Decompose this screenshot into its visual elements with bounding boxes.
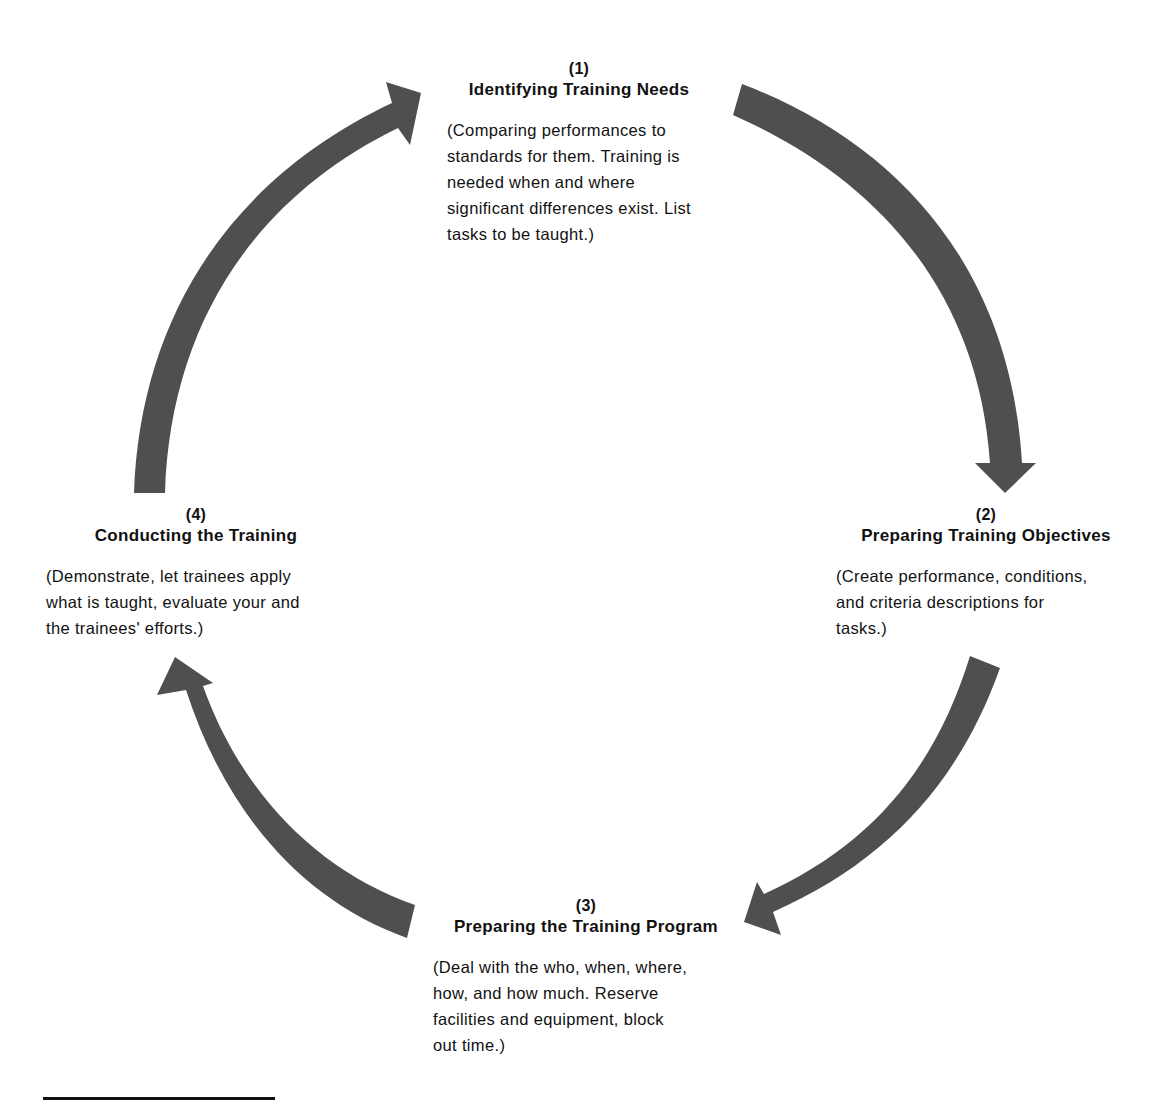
arrow-2-to-3 [744, 656, 1000, 935]
node-4: (4) Conducting the Training (Demonstrate… [46, 505, 356, 641]
node-2-number: (2) [836, 505, 1136, 525]
node-2-description: (Create performance, conditions, and cri… [836, 563, 1146, 641]
node-1-title: Identifying Training Needs [447, 79, 711, 101]
arrow-1-to-2 [733, 84, 1036, 493]
node-1: (1) Identifying Training Needs (Comparin… [447, 59, 737, 247]
footnote-rule [43, 1097, 275, 1100]
node-3-number: (3) [433, 896, 739, 916]
node-2: (2) Preparing Training Objectives (Creat… [836, 505, 1146, 641]
node-1-description: (Comparing performances to standards for… [447, 117, 737, 247]
node-4-description: (Demonstrate, let trainees apply what is… [46, 563, 356, 641]
node-3-title: Preparing the Training Program [433, 916, 739, 938]
node-3: (3) Preparing the Training Program (Deal… [433, 896, 753, 1058]
node-4-number: (4) [46, 505, 346, 525]
arrow-3-to-4 [157, 657, 415, 938]
node-2-title: Preparing Training Objectives [836, 525, 1136, 547]
arrow-4-to-1 [134, 82, 421, 493]
node-3-description: (Deal with the who, when, where, how, an… [433, 954, 753, 1058]
node-1-number: (1) [447, 59, 711, 79]
node-4-title: Conducting the Training [46, 525, 346, 547]
